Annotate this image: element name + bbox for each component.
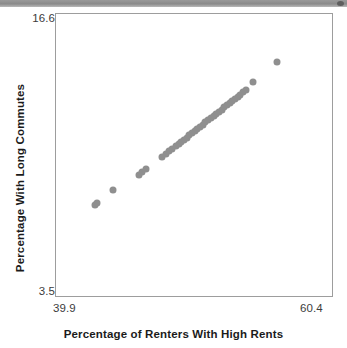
scatter-points-layer	[56, 14, 332, 296]
scatter-point	[242, 87, 249, 94]
y-axis-max-tick-label: 16.6	[32, 12, 55, 24]
scatter-point	[110, 187, 117, 194]
scatter-point	[142, 165, 149, 172]
scatter-point	[274, 58, 281, 65]
x-axis-max-tick-label: 60.4	[300, 302, 323, 314]
window-title-bar	[0, 0, 347, 7]
x-axis-min-tick-label: 39.9	[53, 302, 76, 314]
x-axis-title: Percentage of Renters With High Rents	[0, 328, 347, 340]
y-axis-title-label: Percentage With Long Commutes	[14, 83, 26, 271]
y-axis-title: Percentage With Long Commutes	[10, 7, 30, 348]
scatter-point	[250, 79, 257, 86]
window-dot-icon	[337, 1, 344, 6]
plot-area	[55, 13, 333, 297]
scatter-plot-figure: Percentage With Long Commutes 16.6 3.5 3…	[0, 7, 347, 348]
y-axis-min-tick-label: 3.5	[39, 285, 55, 297]
scatter-point	[94, 200, 101, 207]
